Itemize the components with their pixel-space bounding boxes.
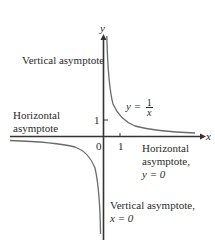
x-axis-label: x: [206, 130, 211, 142]
horizontal-asymptote-right-line1: Horizontal: [142, 142, 189, 154]
vertical-asymptote-bottom-line2: x = 0: [110, 212, 133, 224]
y-tick-label: 1: [94, 114, 100, 126]
vertical-asymptote-top-label: Vertical asymptote: [22, 54, 104, 66]
y-axis-label: y: [100, 22, 105, 34]
curve-positive-branch: [107, 36, 195, 133]
asymptote-diagram: y x 1 0 1 Vertical asymptote y = 1 x Hor…: [0, 0, 215, 241]
fraction-denominator: x: [147, 108, 151, 117]
horizontal-asymptote-left-line1: Horizontal: [13, 109, 60, 121]
horizontal-asymptote-left-line2: asymptote: [13, 122, 58, 134]
horizontal-asymptote-right-line3: y = 0: [142, 168, 165, 180]
x-tick-label: 1: [118, 140, 124, 152]
x-axis: [10, 134, 206, 140]
vertical-asymptote-bottom-line1: Vertical asymptote,: [110, 199, 195, 211]
horizontal-asymptote-right-line2: asymptote,: [142, 155, 190, 167]
function-lhs: y =: [126, 100, 141, 112]
curve-negative-branch: [10, 141, 101, 235]
function-label: y = 1 x: [126, 98, 153, 117]
fraction: 1 x: [146, 98, 153, 117]
origin-label: 0: [96, 140, 102, 152]
y-axis-arrow-icon: [101, 34, 107, 40]
